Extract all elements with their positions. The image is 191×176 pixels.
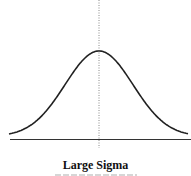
- figure-caption: Large Sigma: [0, 158, 191, 172]
- normal-distribution-diagram: [0, 0, 191, 176]
- figure-subcaption-cutoff: [55, 172, 137, 176]
